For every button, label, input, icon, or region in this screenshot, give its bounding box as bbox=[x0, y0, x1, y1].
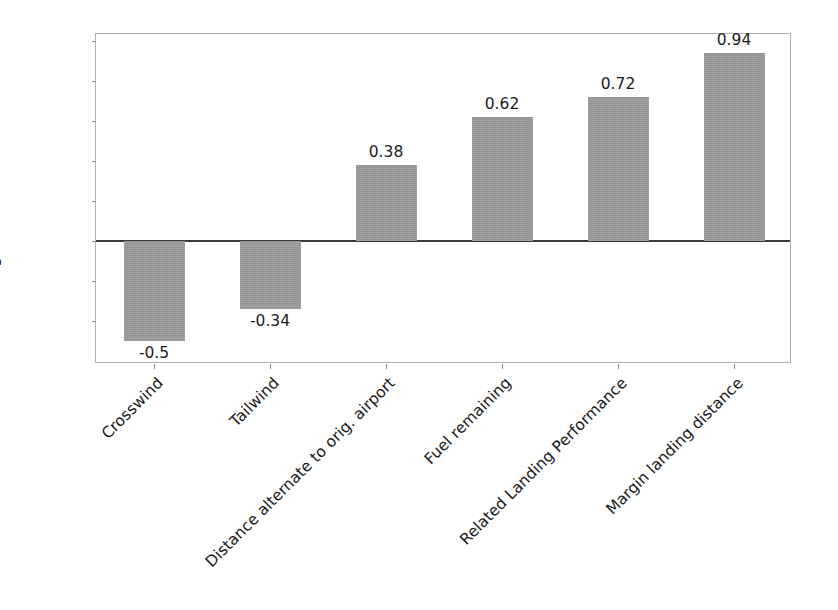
y-tick-mark bbox=[92, 201, 96, 202]
x-tick-mark bbox=[734, 364, 735, 369]
bar-value-label: -0.5 bbox=[139, 344, 169, 362]
y-tick-mark bbox=[92, 81, 96, 82]
y-tick-mark bbox=[92, 321, 96, 322]
bar-value-label: 0.72 bbox=[601, 75, 636, 93]
y-tick-mark bbox=[92, 41, 96, 42]
zero-baseline bbox=[96, 240, 790, 242]
bar bbox=[704, 53, 765, 241]
bar bbox=[356, 165, 417, 241]
y-axis-label: Averaged Correlation with Score bbox=[0, 21, 2, 351]
x-tick-label: Tailwind bbox=[226, 374, 282, 430]
bar bbox=[240, 241, 301, 309]
y-tick-mark bbox=[92, 161, 96, 162]
bar bbox=[588, 97, 649, 241]
x-tick-mark bbox=[502, 364, 503, 369]
x-tick-label: Margin landing distance bbox=[603, 374, 747, 518]
x-tick-mark bbox=[386, 364, 387, 369]
x-tick-mark bbox=[618, 364, 619, 369]
bar-value-label: -0.34 bbox=[250, 312, 290, 330]
bar bbox=[472, 117, 533, 241]
plot-area: Averaged Correlation with Score −0.4−0.2… bbox=[95, 33, 791, 363]
y-tick-mark bbox=[92, 281, 96, 282]
bar-value-label: 0.38 bbox=[369, 143, 404, 161]
bar-value-label: 0.94 bbox=[717, 31, 752, 49]
chart-figure: Averaged Correlation with Score −0.4−0.2… bbox=[0, 0, 838, 610]
y-tick-mark bbox=[92, 121, 96, 122]
x-tick-label: Fuel remaining bbox=[421, 374, 515, 468]
x-tick-label: Distance alternate to orig. airport bbox=[202, 374, 399, 571]
bar bbox=[124, 241, 185, 341]
x-tick-mark bbox=[270, 364, 271, 369]
x-tick-mark bbox=[154, 364, 155, 369]
bar-value-label: 0.62 bbox=[485, 95, 520, 113]
x-tick-label: Crosswind bbox=[98, 374, 167, 443]
